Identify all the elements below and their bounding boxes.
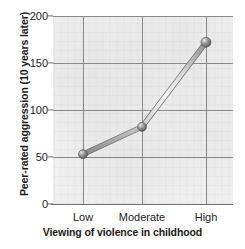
y-tick-label: 150 xyxy=(5,57,53,69)
y-tick-label: 200 xyxy=(5,10,53,22)
x-axis-ticks: Low Moderate High xyxy=(0,206,245,226)
x-tick-label: High xyxy=(195,211,218,223)
plot-area xyxy=(53,16,233,204)
violence-viewing-aggression-chart: Peer-rated aggression (10 years later) 0… xyxy=(0,0,245,249)
y-tick-label: 100 xyxy=(5,104,53,116)
gridline-vertical xyxy=(83,16,84,204)
y-tick-label: 50 xyxy=(5,151,53,163)
x-tick-label: Low xyxy=(73,211,93,223)
gridline-vertical xyxy=(142,16,143,204)
gridline-vertical xyxy=(206,16,207,204)
x-tick-label: Moderate xyxy=(119,211,165,223)
x-axis-title: Viewing of violence in childhood xyxy=(0,226,245,238)
